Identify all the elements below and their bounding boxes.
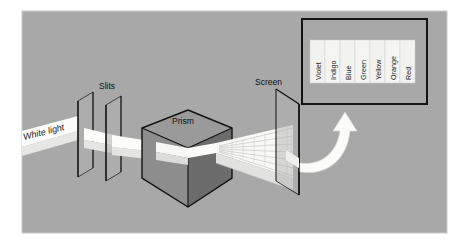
band-label-red: Red	[404, 67, 413, 80]
screen-plate	[276, 89, 299, 195]
band-label-yellow: Yellow	[374, 59, 383, 80]
prism-dispersion-diagram: Violet Indigo Blue Green Yellow Orange R…	[0, 0, 453, 247]
band-label-violet: Violet	[314, 62, 323, 80]
spectrum-box: Violet Indigo Blue Green Yellow Orange R…	[302, 19, 427, 104]
band-label-green: Green	[359, 60, 368, 80]
band-label-indigo: Indigo	[329, 60, 338, 80]
band-label-orange: Orange	[389, 56, 398, 80]
screen-label: Screen	[255, 77, 282, 87]
figure-root: Violet Indigo Blue Green Yellow Orange R…	[0, 0, 453, 247]
slits-label: Slits	[99, 81, 115, 91]
band-label-blue: Blue	[344, 66, 353, 80]
prism-label: Prism	[172, 116, 194, 126]
screen-plate-face	[276, 89, 299, 195]
